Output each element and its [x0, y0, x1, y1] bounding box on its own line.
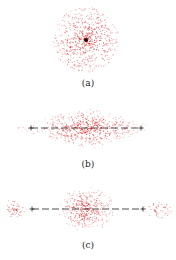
panel-label-a: (a) — [0, 78, 176, 88]
plus-marker-icon — [141, 207, 146, 212]
plus-marker-icon — [30, 207, 35, 212]
figure-canvas — [0, 0, 176, 260]
panel-label-c: (c) — [0, 240, 176, 250]
plus-marker-icon — [29, 126, 34, 131]
center-dot-icon — [84, 38, 88, 42]
scatter-panel-b — [17, 109, 146, 148]
panel-label-b: (b) — [0, 159, 176, 169]
plus-marker-icon — [139, 126, 144, 131]
scatter-panel-c — [7, 187, 172, 231]
scatter-panel-a — [53, 7, 119, 72]
